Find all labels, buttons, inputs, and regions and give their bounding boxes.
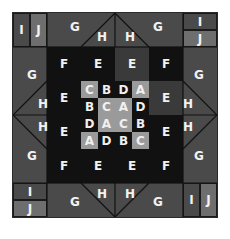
- mini-cell[interactable]: B: [132, 115, 149, 132]
- region-h-bottom-left[interactable]: H: [97, 187, 107, 201]
- cell-f[interactable]: F: [47, 47, 81, 81]
- cell-label: E: [94, 57, 102, 71]
- cell-e[interactable]: E: [149, 81, 183, 115]
- cell-label: E: [60, 125, 68, 139]
- cell-e[interactable]: E: [81, 47, 115, 81]
- mini-cell[interactable]: C: [98, 98, 115, 115]
- cell-label: E: [94, 159, 102, 173]
- cell-f[interactable]: F: [47, 149, 81, 183]
- region-g-left-top[interactable]: G: [27, 68, 37, 82]
- region-h-right-top[interactable]: H: [183, 97, 193, 111]
- region-h-right-bottom[interactable]: H: [183, 120, 193, 134]
- region-g-bottom-right[interactable]: G: [153, 195, 163, 209]
- region-h-left-bottom[interactable]: H: [38, 120, 48, 134]
- mini-cell[interactable]: A: [132, 81, 149, 98]
- region-g-top-left[interactable]: G: [70, 20, 80, 34]
- region-h-left-top[interactable]: H: [38, 97, 48, 111]
- cell-e[interactable]: E: [47, 115, 81, 149]
- cell-e[interactable]: E: [115, 149, 149, 183]
- mini-cell[interactable]: B: [81, 98, 98, 115]
- cell-bottom-left-j[interactable]: J: [13, 200, 47, 217]
- mini-cell[interactable]: D: [81, 115, 98, 132]
- cell-label: F: [162, 159, 170, 173]
- center-grid: C B D A B C A D D A C B A D B C: [81, 81, 149, 149]
- cell-label: E: [60, 91, 68, 105]
- cell-label: E: [162, 91, 170, 105]
- cell-top-right-j[interactable]: J: [183, 30, 217, 47]
- region-g-bottom-left[interactable]: G: [70, 195, 80, 209]
- cell-label: J: [36, 23, 40, 37]
- cell-label: F: [60, 159, 68, 173]
- cell-label: I: [189, 193, 193, 207]
- cell-top-left-j[interactable]: J: [30, 13, 47, 47]
- mini-cell[interactable]: D: [132, 98, 149, 115]
- cell-label: I: [198, 15, 202, 29]
- mini-cell[interactable]: C: [115, 115, 132, 132]
- cell-label: F: [162, 57, 170, 71]
- mini-cell[interactable]: A: [98, 115, 115, 132]
- mini-cell[interactable]: A: [115, 98, 132, 115]
- cell-label: F: [60, 57, 68, 71]
- mini-cell[interactable]: D: [98, 132, 115, 149]
- cell-top-right-i[interactable]: I: [183, 13, 217, 30]
- region-g-left-bottom[interactable]: G: [27, 149, 37, 163]
- region-h-top-right[interactable]: H: [125, 30, 135, 44]
- cell-e[interactable]: E: [47, 81, 81, 115]
- region-g-top-right[interactable]: G: [153, 20, 163, 34]
- mini-cell[interactable]: C: [81, 81, 98, 98]
- region-h-top-left[interactable]: H: [97, 30, 107, 44]
- cell-bottom-left-i[interactable]: I: [13, 183, 47, 200]
- region-g-right-top[interactable]: G: [194, 68, 204, 82]
- cell-label: E: [128, 159, 136, 173]
- cell-bottom-right-j[interactable]: J: [200, 183, 217, 217]
- cell-label: I: [28, 185, 32, 199]
- cell-bottom-right-i[interactable]: I: [183, 183, 200, 217]
- mini-cell[interactable]: D: [115, 81, 132, 98]
- cell-e[interactable]: E: [81, 149, 115, 183]
- cell-f[interactable]: F: [149, 149, 183, 183]
- cell-label: I: [19, 23, 23, 37]
- mini-cell[interactable]: A: [81, 132, 98, 149]
- cell-label: E: [162, 125, 170, 139]
- cell-label: J: [206, 193, 210, 207]
- region-h-bottom-right[interactable]: H: [125, 187, 135, 201]
- cell-label: E: [128, 57, 136, 71]
- cell-e[interactable]: E: [149, 115, 183, 149]
- cell-label: J: [28, 202, 32, 216]
- cell-top-left-i[interactable]: I: [13, 13, 30, 47]
- mini-cell[interactable]: B: [115, 132, 132, 149]
- mini-cell[interactable]: B: [98, 81, 115, 98]
- mini-cell[interactable]: C: [132, 132, 149, 149]
- cell-e[interactable]: E: [115, 47, 149, 81]
- puzzle-board: I J I J I J I J F E E F E E E E F E E F …: [12, 12, 218, 218]
- cell-f[interactable]: F: [149, 47, 183, 81]
- cell-label: J: [198, 32, 202, 46]
- region-g-right-bottom[interactable]: G: [194, 149, 204, 163]
